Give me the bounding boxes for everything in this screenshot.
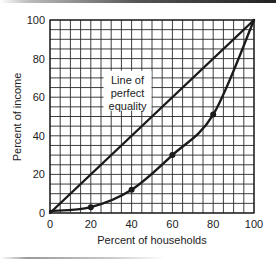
x-tick-label: 40 — [125, 218, 137, 230]
x-tick-label: 100 — [245, 218, 263, 230]
x-tick-label: 60 — [166, 218, 178, 230]
lorenz-curve-chart: 020406080100 020406080100 Line ofperfect… — [0, 0, 276, 260]
y-tick-label: 40 — [33, 130, 45, 142]
y-tick-label: 20 — [33, 168, 45, 180]
data-point-marker — [210, 112, 216, 118]
y-tick-label: 80 — [33, 53, 45, 65]
x-tick-label: 20 — [85, 218, 97, 230]
x-axis-ticks: 020406080100 — [47, 218, 263, 230]
x-axis-title: Percent of households — [97, 234, 207, 246]
y-axis-title: Percent of income — [11, 73, 23, 162]
data-point-marker — [169, 152, 175, 158]
y-tick-label: 100 — [27, 14, 45, 26]
x-tick-label: 0 — [47, 218, 53, 230]
annotation-text: equality — [109, 100, 147, 112]
annotation-text: Line of — [111, 74, 145, 86]
y-tick-label: 60 — [33, 91, 45, 103]
x-tick-label: 80 — [207, 218, 219, 230]
data-point-marker — [88, 204, 94, 210]
annotation-text: perfect — [111, 87, 145, 99]
annotation-layer: Line ofperfectequality — [104, 71, 152, 112]
y-axis-ticks: 020406080100 — [27, 14, 45, 219]
data-point-marker — [129, 187, 135, 193]
y-tick-label: 0 — [39, 207, 45, 219]
